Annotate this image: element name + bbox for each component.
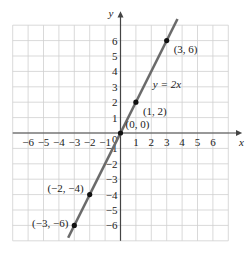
x-tick-label: 2 [149, 136, 155, 148]
data-point [72, 223, 77, 228]
x-tick-label: −4 [53, 136, 65, 148]
y-tick-label: 1 [112, 112, 118, 124]
point-label: (−3, −6) [32, 217, 69, 230]
point-label: (3, 6) [174, 43, 198, 56]
point-label: (−2, −4) [47, 182, 84, 195]
y-tick-label: 5 [112, 50, 118, 62]
data-point [133, 100, 138, 105]
x-tick-label: −6 [22, 136, 34, 148]
x-axis-label: x [238, 136, 244, 148]
y-tick-label: −4 [106, 189, 118, 201]
y-tick-label: −6 [106, 219, 118, 231]
y-axis-label: y [108, 7, 114, 19]
x-tick-label: 5 [195, 136, 201, 148]
x-tick-label: 4 [179, 136, 185, 148]
data-point [118, 130, 123, 135]
equation-label: y = 2x [152, 78, 181, 90]
y-tick-label: −3 [106, 173, 118, 185]
series-line [68, 19, 177, 238]
y-tick-label: 3 [112, 81, 118, 93]
x-tick-label: 3 [164, 136, 170, 148]
y-tick-label: 2 [112, 96, 118, 108]
x-tick-label: −2 [84, 136, 96, 148]
data-point [87, 192, 92, 197]
y-tick-label: 4 [112, 65, 118, 77]
y-tick-label: 6 [112, 35, 118, 47]
chart: −6−5−4−3−2−1123456−6−5−4−3−2−11234560 (−… [0, 0, 252, 255]
x-tick-label: 6 [210, 136, 216, 148]
y-tick-label: −5 [106, 204, 118, 216]
x-tick-label: −5 [38, 136, 50, 148]
data-point [164, 38, 169, 43]
point-label: (1, 2) [143, 105, 167, 118]
point-label: (0, 0) [126, 118, 150, 131]
x-tick-label: 1 [133, 136, 139, 148]
x-tick-label: −3 [68, 136, 80, 148]
